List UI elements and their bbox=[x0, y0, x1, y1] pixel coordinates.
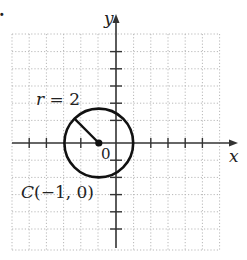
problem-marker: . bbox=[0, 1, 5, 20]
coordinate-plane-figure: . bbox=[0, 0, 247, 260]
radius-label: r = 2 bbox=[36, 89, 80, 109]
y-axis-label: y bbox=[103, 8, 114, 28]
origin-label: 0 bbox=[101, 145, 111, 163]
x-axis-label: x bbox=[229, 146, 239, 166]
radius-segment bbox=[75, 119, 99, 143]
center-label: C(−1, 0) bbox=[21, 182, 94, 202]
